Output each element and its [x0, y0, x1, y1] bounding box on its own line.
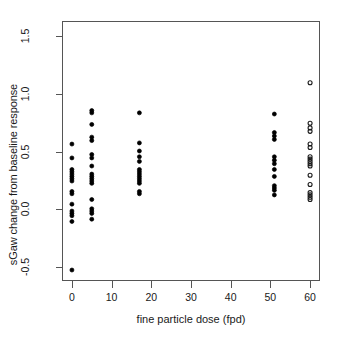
- x-tick-label: 10: [97, 291, 127, 303]
- x-tick-mark: [231, 281, 232, 288]
- plot-frame: [62, 21, 320, 281]
- y-tick-mark: [56, 209, 63, 210]
- y-tick-mark: [56, 267, 63, 268]
- y-tick-mark: [56, 94, 63, 95]
- x-tick-mark: [191, 281, 192, 288]
- x-tick-mark: [112, 281, 113, 288]
- x-tick-label: 60: [295, 291, 325, 303]
- x-tick-label: 40: [216, 291, 246, 303]
- x-tick-label: 30: [176, 291, 206, 303]
- x-tick-label: 50: [255, 291, 285, 303]
- y-tick-mark: [56, 152, 63, 153]
- x-tick-mark: [72, 281, 73, 288]
- x-axis-title: fine particle dose (fpd): [62, 313, 320, 325]
- y-tick-mark: [56, 36, 63, 37]
- x-tick-label: 20: [136, 291, 166, 303]
- scatter-plot-figure: -0.50.00.51.01.5 0102030405060 sGaw chan…: [0, 0, 339, 349]
- y-axis-title: sGaw change from baseline response: [0, 0, 26, 349]
- x-tick-mark: [270, 281, 271, 288]
- x-tick-mark: [151, 281, 152, 288]
- x-tick-label: 0: [57, 291, 87, 303]
- x-tick-mark: [310, 281, 311, 288]
